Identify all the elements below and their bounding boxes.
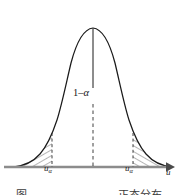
normal-distribution-figure: 1–α uα uα u 图 正态分布 xyxy=(0,0,178,195)
axis-label: u xyxy=(166,168,171,177)
confidence-alpha: α xyxy=(84,87,90,98)
left-critical-value-label: uα xyxy=(44,164,52,174)
figure-caption: 图 正态分布 xyxy=(0,186,178,195)
right-critical-value-label: uα xyxy=(125,164,133,174)
left-critical-subscript: α xyxy=(49,167,52,174)
confidence-area-label: 1–α xyxy=(73,88,89,99)
caption-label: 图 xyxy=(16,186,27,195)
caption-text: 正态分布 xyxy=(118,186,162,195)
right-tail-shaded-region xyxy=(130,128,176,170)
right-critical-subscript: α xyxy=(130,167,133,174)
